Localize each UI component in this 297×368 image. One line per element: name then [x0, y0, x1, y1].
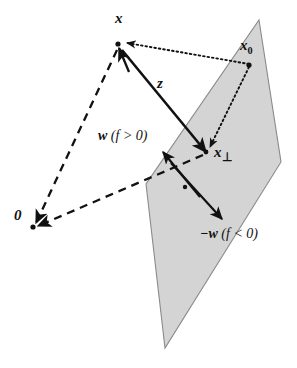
- label-point-x: x: [115, 11, 123, 26]
- label-vector-z: z: [157, 76, 163, 91]
- point-x: [115, 41, 120, 46]
- x-to-x0-dotted: [127, 43, 249, 64]
- label-point-x-perp: x⊥: [214, 145, 232, 164]
- label-w-negative-condition: (f < 0): [221, 226, 258, 241]
- label-z-text: z: [157, 75, 163, 91]
- point-origin: [30, 224, 35, 229]
- label-x0-base: x: [240, 37, 248, 53]
- label-w-positive: w (f > 0): [98, 129, 148, 143]
- label-w-positive-vector: w: [98, 128, 107, 143]
- label-w-positive-condition: (f > 0): [111, 128, 148, 143]
- label-xperp-base: x: [214, 144, 222, 160]
- label-w-negative-vector: −w: [200, 226, 218, 241]
- label-origin-text: 0: [14, 207, 22, 223]
- label-origin: 0: [14, 208, 22, 223]
- figure-root: x x0 z x⊥ w (f > 0) −w (f < 0) 0: [0, 0, 297, 368]
- point-x-perp: [204, 150, 209, 155]
- label-w-negative: −w (f < 0): [200, 227, 258, 241]
- label-point-x0: x0: [240, 38, 253, 56]
- point-x0: [246, 62, 251, 67]
- label-xperp-subscript: ⊥: [222, 151, 232, 164]
- point-w-axis-dot: [183, 185, 187, 189]
- label-x-text: x: [115, 10, 123, 26]
- label-x0-subscript: 0: [248, 45, 253, 56]
- decision-hyperplane: [146, 20, 281, 348]
